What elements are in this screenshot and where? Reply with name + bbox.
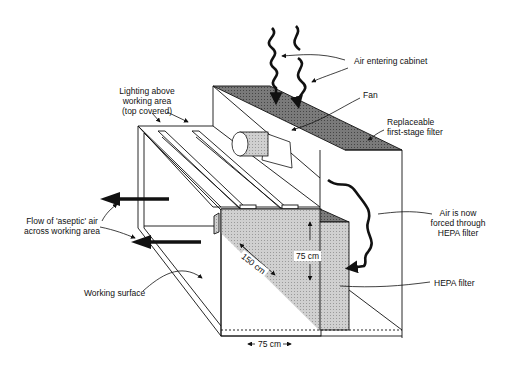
label-lighting-line2: working area [118,96,176,106]
label-air-forced-line3: HEPA filter [428,228,488,238]
aseptic-flow-arrows [100,192,201,249]
label-aseptic-flow-line1: Flow of 'aseptic' air [22,216,102,226]
label-lighting-line3: (top covered) [118,106,176,116]
label-air-forced-line2: forced through [428,218,488,228]
label-fan: Fan [363,90,378,100]
label-aseptic-flow: Flow of 'aseptic' air across working are… [22,216,102,236]
label-first-stage-filter-line2: first-stage filter [387,127,443,137]
dimension-width: 75 cm [256,339,283,349]
label-first-stage-filter: Replaceable first-stage filter [387,117,443,137]
label-lighting-line1: Lighting above [118,86,176,96]
label-working-surface: Working surface [84,288,145,298]
hepa-filter [320,222,349,330]
label-air-forced: Air is now forced through HEPA filter [428,208,488,238]
hepa-filter-top [320,209,349,222]
label-air-entering: Air entering cabinet [354,56,427,66]
label-aseptic-flow-line2: across working area [22,226,102,236]
label-hepa-filter: HEPA filter [434,278,474,288]
label-first-stage-filter-line1: Replaceable [387,117,443,127]
label-lighting: Lighting above working area (top covered… [118,86,176,116]
label-air-forced-line1: Air is now [428,208,488,218]
laminar-flow-cabinet-diagram [0,0,507,368]
cabinet-structure [138,86,402,368]
dimension-height: 75 cm [294,251,321,261]
